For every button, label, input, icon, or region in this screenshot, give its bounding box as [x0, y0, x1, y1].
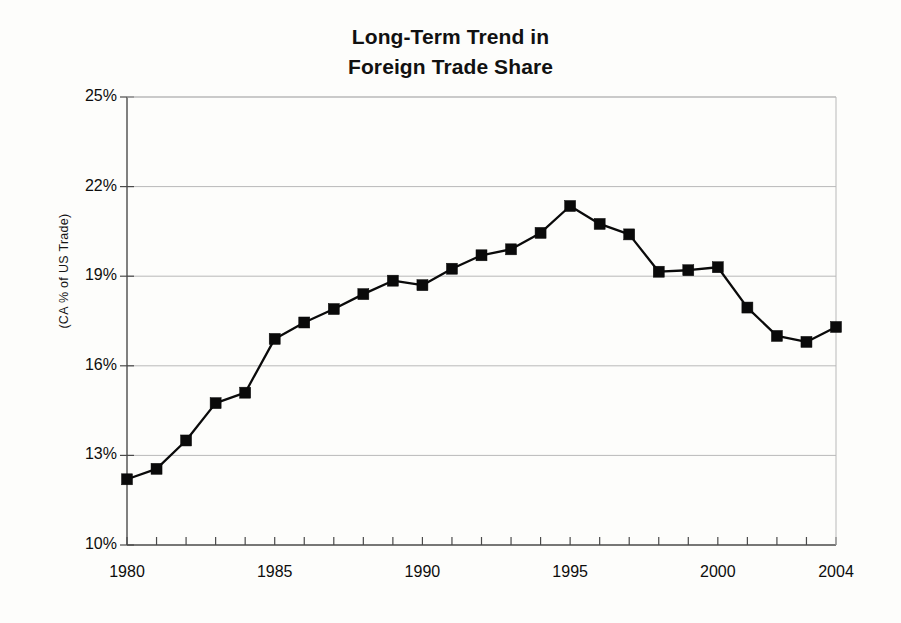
data-point [151, 463, 162, 474]
data-point [624, 229, 635, 240]
data-point [328, 304, 339, 315]
data-point [240, 387, 251, 398]
chart-figure: Long-Term Trend in Foreign Trade Share (… [0, 0, 901, 623]
data-point [122, 474, 133, 485]
data-point-markers [122, 201, 842, 485]
plot-area [0, 0, 901, 623]
x-tick-label: 1980 [92, 563, 162, 581]
x-tick-label: 2004 [801, 563, 871, 581]
y-tick-label: 10% [59, 535, 117, 553]
data-point [269, 333, 280, 344]
data-point [594, 218, 605, 229]
data-point [535, 227, 546, 238]
trend-line [127, 206, 836, 479]
x-axis-ticks [120, 97, 836, 545]
data-point [801, 336, 812, 347]
data-point [476, 250, 487, 261]
data-point [358, 289, 369, 300]
data-point [742, 302, 753, 313]
x-tick-label: 2000 [683, 563, 753, 581]
x-tick-label: 1985 [240, 563, 310, 581]
data-point [712, 262, 723, 273]
gridlines [127, 97, 836, 455]
y-tick-label: 16% [59, 356, 117, 374]
y-tick-label: 25% [59, 87, 117, 105]
data-point [181, 435, 192, 446]
data-point [387, 275, 398, 286]
data-point [565, 201, 576, 212]
data-point [299, 317, 310, 328]
data-point [653, 266, 664, 277]
x-tick-label: 1995 [535, 563, 605, 581]
y-tick-label: 19% [59, 266, 117, 284]
data-point [446, 263, 457, 274]
data-point [506, 244, 517, 255]
data-point [771, 330, 782, 341]
data-point [417, 280, 428, 291]
data-point [831, 321, 842, 332]
axis-lines [127, 97, 836, 545]
data-point [683, 265, 694, 276]
y-tick-label: 13% [59, 445, 117, 463]
y-tick-label: 22% [59, 177, 117, 195]
x-tick-label: 1990 [387, 563, 457, 581]
data-point [210, 398, 221, 409]
